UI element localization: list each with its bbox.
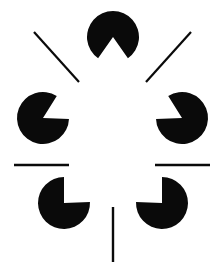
figure-canvas: [0, 0, 222, 273]
kanizsa-figure: [0, 0, 222, 273]
